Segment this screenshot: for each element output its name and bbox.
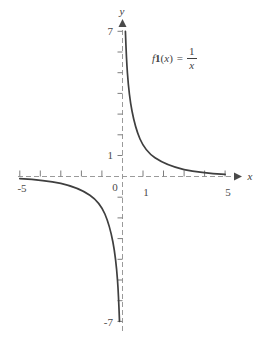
y-tick-label-7: 7 [108,25,114,37]
y-axis-label: y [119,5,125,17]
y-axis-arrow-icon [119,19,127,27]
x-tick-label--5: -5 [17,182,27,194]
x-tick-label-1: 1 [143,186,149,198]
function-plot-figure: -5 0 1 5 7 1 -7 y x f1(x) = 1 x [0,0,264,337]
function-argument: (x) [161,53,173,64]
y-tick-label--7: -7 [104,316,114,328]
plot-canvas: -5 0 1 5 7 1 -7 y x [0,0,264,337]
x-tick-label-0: 0 [112,181,118,193]
x-axis-arrow-icon [234,173,242,181]
axes-group [18,19,242,331]
equals-sign: = [177,53,183,64]
function-label: f1(x) = 1 x [152,46,197,71]
curve-branch-negative [20,179,120,322]
fraction-one-over-x: 1 x [187,46,197,71]
fraction-numerator: 1 [187,46,197,58]
x-tick-label-5: 5 [225,186,231,198]
y-tick-label-1: 1 [108,149,114,161]
x-axis-label: x [247,170,253,182]
fraction-denominator: x [187,59,196,71]
